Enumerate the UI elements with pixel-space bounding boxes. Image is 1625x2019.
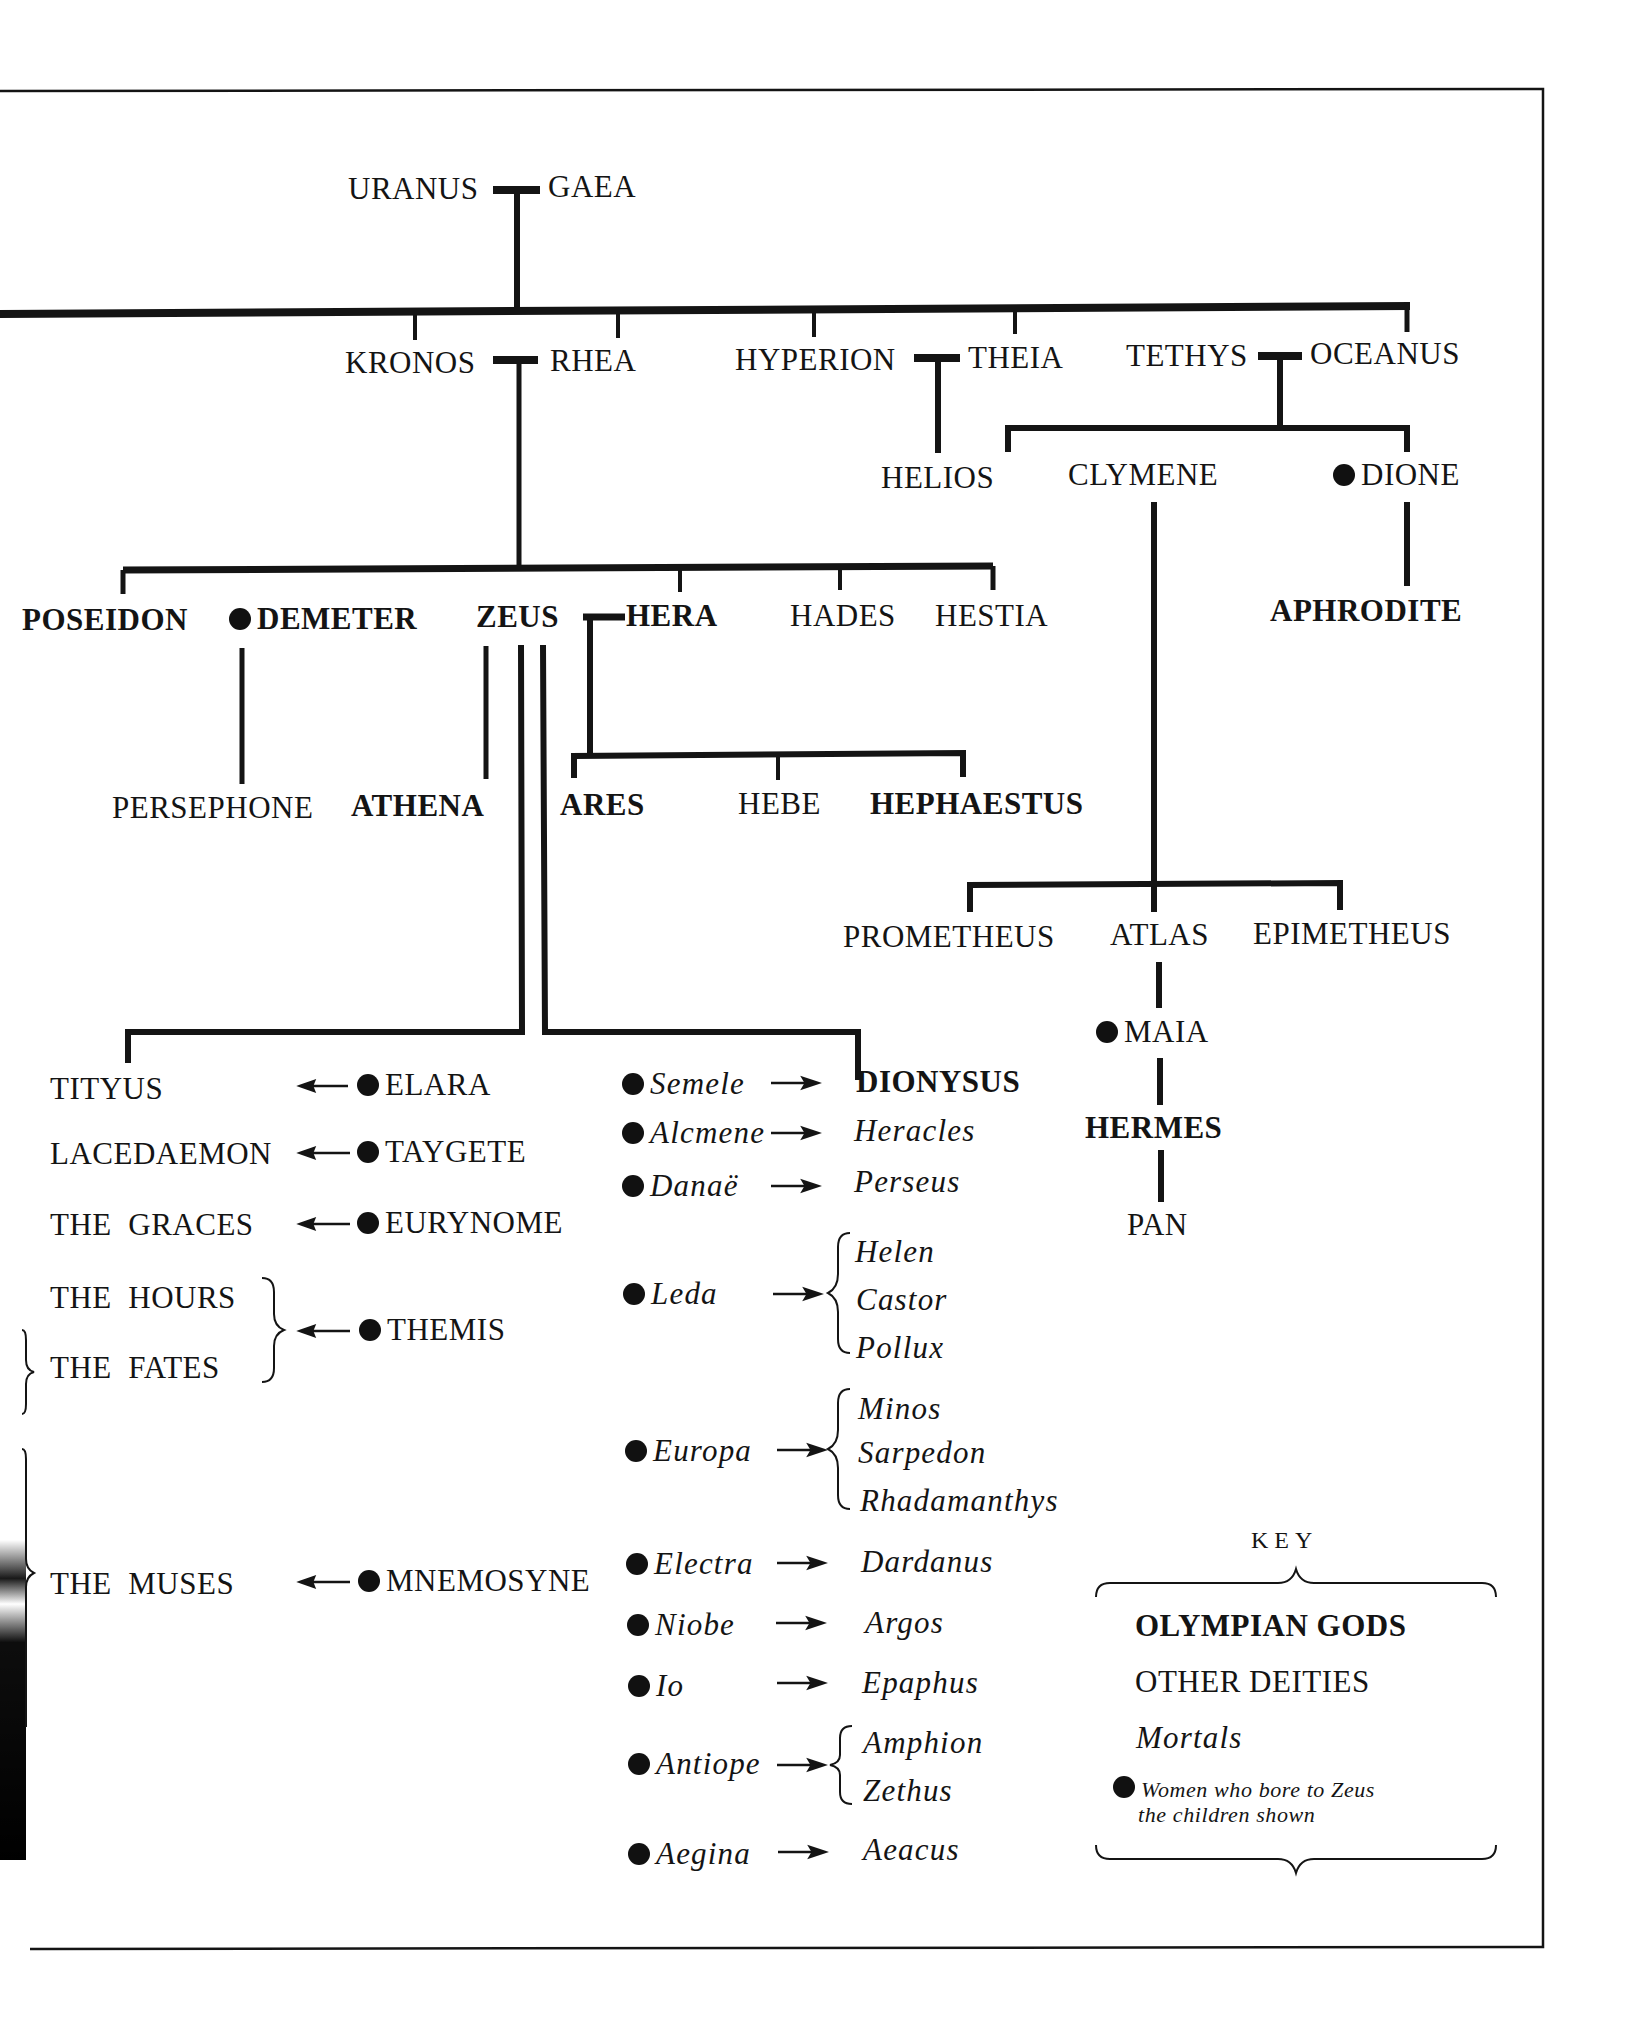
node-dione: DIONE [1333, 459, 1460, 490]
node-the-muses: THE MUSES [50, 1568, 234, 1599]
node-heracles: Heracles [854, 1115, 976, 1146]
node-electra: Electra [626, 1548, 754, 1579]
node-oceanus: OCEANUS [1310, 338, 1460, 369]
legend-women-line2: the children shown [1138, 1802, 1315, 1827]
node-helios: HELIOS [881, 462, 994, 493]
node-sarpedon: Sarpedon [858, 1437, 986, 1468]
node-the-graces: THE GRACES [50, 1209, 254, 1240]
node-zeus: ZEUS [476, 601, 559, 632]
node-io: Io [628, 1670, 684, 1701]
node-the-hours: THE HOURS [50, 1282, 236, 1313]
tree-connector-lines [0, 0, 1625, 2019]
node-hephaestus: HEPHAESTUS [870, 788, 1083, 819]
legend-title: KEY [1251, 1528, 1318, 1552]
node-tethys: TETHYS [1126, 340, 1248, 371]
node-leda: Leda [623, 1278, 718, 1309]
node-the-fates: THE FATES [50, 1352, 220, 1383]
node-dionysus: DIONYSUS [856, 1066, 1020, 1097]
node-pan: PAN [1127, 1209, 1188, 1240]
node-persephone: PERSEPHONE [112, 792, 313, 823]
node-alcmene: Alcmene [622, 1117, 765, 1148]
node-gaea: GAEA [548, 171, 636, 202]
node-aeacus: Aeacus [863, 1834, 960, 1865]
node-lacedaemon: LACEDAEMON [50, 1138, 272, 1169]
node-semele: Semele [622, 1068, 745, 1099]
node-castor: Castor [856, 1284, 948, 1315]
legend-other-deities: OTHER DEITIES [1135, 1666, 1370, 1697]
node-poseidon: POSEIDON [22, 604, 188, 635]
node-aphrodite: APHRODITE [1270, 595, 1462, 626]
node-hades: HADES [790, 600, 896, 631]
node-clymene: CLYMENE [1068, 459, 1218, 490]
node-epimetheus: EPIMETHEUS [1253, 918, 1451, 949]
node-tityus: TITYUS [50, 1073, 163, 1104]
node-niobe: Niobe [627, 1609, 735, 1640]
node-pollux: Pollux [856, 1332, 944, 1363]
node-uranus: URANUS [348, 173, 478, 204]
node-ares: ARES [560, 789, 645, 820]
node-aegina: Aegina [628, 1838, 751, 1869]
genealogy-diagram: URANUS GAEA KRONOS RHEA HYPERION THEIA T… [0, 0, 1625, 2019]
node-atlas: ATLAS [1110, 919, 1209, 950]
node-hyperion: HYPERION [735, 344, 896, 375]
node-rhadamanthys: Rhadamanthys [860, 1485, 1059, 1516]
node-athena: ATHENA [351, 790, 484, 821]
node-maia: MAIA [1096, 1016, 1209, 1047]
node-taygete: TAYGETE [357, 1136, 526, 1167]
node-dardanus: Dardanus [861, 1546, 993, 1577]
node-rhea: RHEA [550, 345, 636, 376]
node-danae: Danaë [622, 1170, 739, 1201]
node-themis: THEMIS [359, 1314, 505, 1345]
node-prometheus: PROMETHEUS [843, 921, 1055, 952]
legend-women-line1: Women who bore to Zeus [1113, 1776, 1375, 1802]
node-minos: Minos [858, 1393, 942, 1424]
node-helen: Helen [855, 1236, 935, 1267]
node-mnemosyne: MNEMOSYNE [358, 1565, 590, 1596]
node-zethus: Zethus [863, 1775, 953, 1806]
node-hebe: HEBE [738, 788, 821, 819]
legend-mortals: Mortals [1136, 1722, 1243, 1753]
node-eurynome: EURYNOME [357, 1207, 563, 1238]
node-hestia: HESTIA [935, 600, 1048, 631]
node-amphion: Amphion [863, 1727, 983, 1758]
node-hermes: HERMES [1085, 1112, 1222, 1143]
node-argos: Argos [865, 1607, 944, 1638]
node-antiope: Antiope [628, 1748, 761, 1779]
node-hera: HERA [626, 600, 718, 631]
node-perseus: Perseus [854, 1166, 961, 1197]
node-epaphus: Epaphus [862, 1667, 979, 1698]
node-theia: THEIA [968, 342, 1063, 373]
node-demeter: DEMETER [229, 603, 417, 634]
node-europa: Europa [625, 1435, 752, 1466]
node-kronos: KRONOS [345, 347, 475, 378]
node-elara: ELARA [357, 1069, 491, 1100]
legend-olympian-gods: OLYMPIAN GODS [1135, 1610, 1406, 1641]
